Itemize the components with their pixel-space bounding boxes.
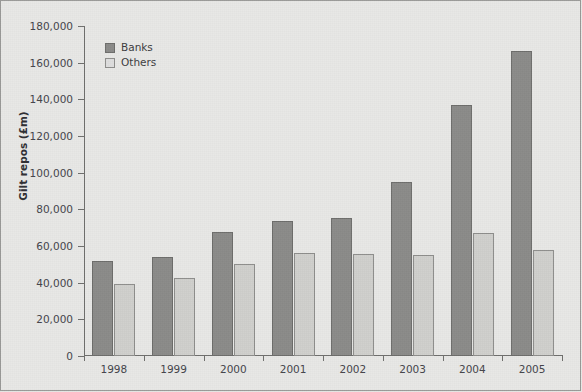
bar-banks-2004 (451, 105, 472, 356)
y-tick-label: 40,000 (0, 278, 73, 289)
bar-others-2000 (234, 264, 255, 356)
x-tick-label-1998: 1998 (84, 364, 144, 375)
x-tick-label-1999: 1999 (144, 364, 204, 375)
y-tick-label: 100,000 (0, 168, 73, 179)
bar-others-2004 (473, 233, 494, 356)
bar-others-2005 (533, 250, 554, 356)
bar-banks-2002 (331, 218, 352, 356)
bar-banks-2001 (272, 221, 293, 356)
y-tick-label: 20,000 (0, 314, 73, 325)
y-tick-label: 160,000 (0, 58, 73, 69)
legend-label-banks: Banks (121, 42, 153, 53)
x-tick-mark (562, 355, 563, 361)
y-tick-label: 0 (0, 351, 73, 362)
legend-swatch-others-icon (105, 58, 115, 68)
y-tick-label: 180,000 (0, 21, 73, 32)
bar-banks-2000 (212, 232, 233, 356)
x-tick-label-2004: 2004 (442, 364, 502, 375)
chart-legend: Banks Others (105, 40, 156, 70)
x-tick-label-2001: 2001 (263, 364, 323, 375)
plot-area (84, 26, 562, 356)
x-tick-label-2002: 2002 (323, 364, 383, 375)
legend-label-others: Others (121, 57, 156, 68)
bar-banks-1999 (152, 257, 173, 356)
bar-banks-2005 (511, 51, 532, 356)
bar-others-1999 (174, 278, 195, 356)
legend-swatch-banks-icon (105, 43, 115, 53)
bar-others-2003 (413, 255, 434, 356)
x-tick-label-2000: 2000 (203, 364, 263, 375)
bar-banks-1998 (92, 261, 113, 356)
y-tick-label: 120,000 (0, 131, 73, 142)
chart-figure: Gilt repos (£m) 020,00040,00060,00080,00… (0, 0, 582, 392)
y-tick-label: 80,000 (0, 204, 73, 215)
bar-others-2001 (294, 253, 315, 356)
legend-item-others: Others (105, 55, 156, 70)
y-tick-label: 140,000 (0, 94, 73, 105)
legend-item-banks: Banks (105, 40, 156, 55)
bar-others-1998 (114, 284, 135, 356)
y-tick-label: 60,000 (0, 241, 73, 252)
x-tick-label-2005: 2005 (502, 364, 562, 375)
bar-banks-2003 (391, 182, 412, 356)
bar-others-2002 (353, 254, 374, 356)
x-tick-label-2003: 2003 (383, 364, 443, 375)
